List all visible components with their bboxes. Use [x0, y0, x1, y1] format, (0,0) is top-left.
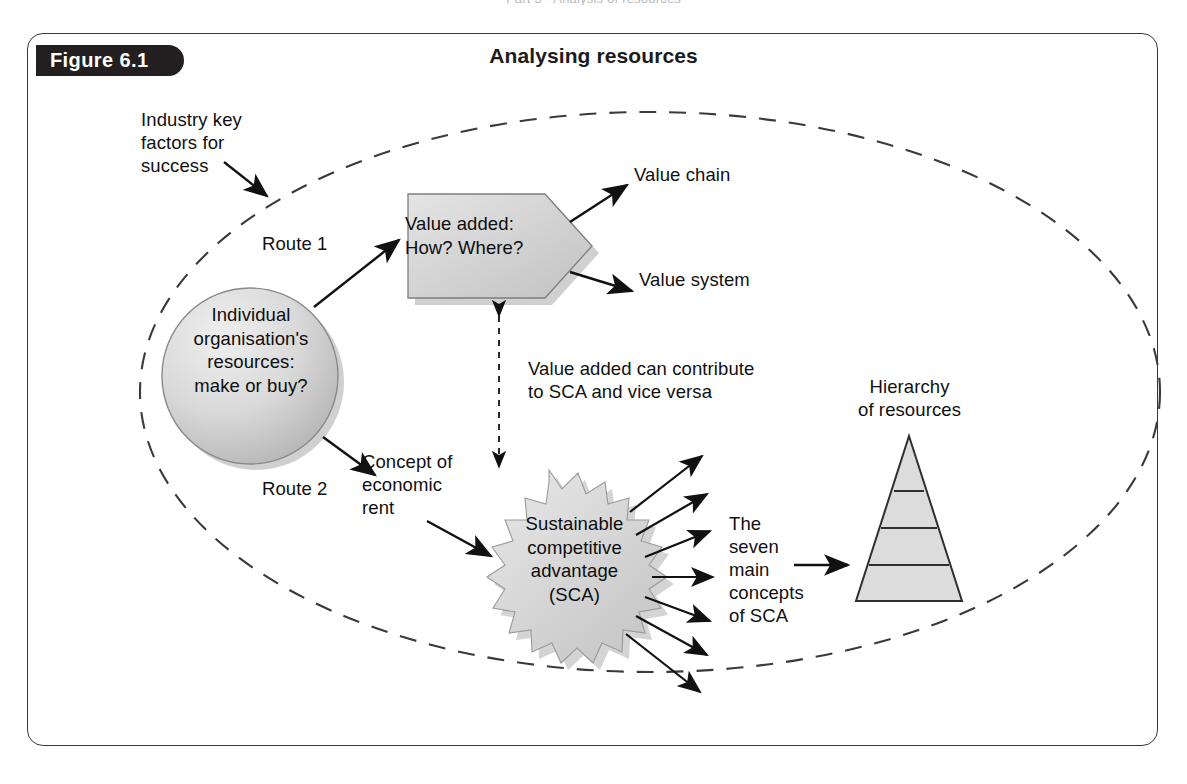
- organisation-circle-label: Individual organisation's resources: mak…: [163, 303, 339, 397]
- label-value-added-sca-note: Value added can contribute to SCA and vi…: [528, 357, 754, 403]
- label-industry-key-factors: Industry key factors for success: [141, 108, 242, 177]
- arrow-value-system: [570, 272, 632, 291]
- label-route-2: Route 2: [262, 477, 328, 500]
- label-seven-main-concepts: The seven main concepts of SCA: [729, 512, 804, 627]
- value-added-pentagon-label: Value added: How? Where?: [405, 212, 553, 259]
- label-concept-of-economic-rent: Concept of economic rent: [362, 450, 452, 519]
- label-route-1: Route 1: [262, 232, 328, 255]
- label-value-chain: Value chain: [634, 163, 730, 186]
- figure-page: Part 3 · Analysis of resources Figure 6.…: [0, 0, 1187, 784]
- label-hierarchy-of-resources: Hierarchy of resources: [832, 375, 987, 421]
- label-value-system: Value system: [639, 268, 750, 291]
- arrow-value-chain: [570, 185, 627, 222]
- hierarchy-pyramid-shape: [856, 436, 962, 601]
- sca-starburst-label: Sustainable competitive advantage (SCA): [487, 512, 662, 606]
- arrow-rent-to-sca: [427, 521, 491, 556]
